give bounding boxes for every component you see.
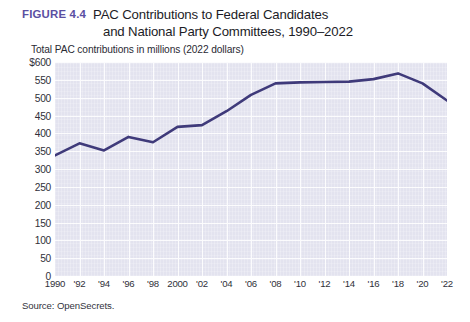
x-axis-tick-2018: '18	[392, 278, 404, 289]
x-axis-tick-2000: 2000	[167, 278, 187, 289]
x-axis-tick-1996: '96	[123, 278, 135, 289]
y-axis-tick-0: 0	[0, 271, 51, 282]
x-axis-tick-2016: '16	[368, 278, 380, 289]
x-axis-tick-2004: '04	[221, 278, 233, 289]
y-axis-tick-150: 150	[0, 217, 51, 228]
data-series-line	[55, 62, 447, 276]
x-axis-tick-2002: '02	[196, 278, 208, 289]
y-axis-tick-300: 300	[0, 164, 51, 175]
y-axis-tick-350: 350	[0, 146, 51, 157]
x-axis-tick-1994: '94	[98, 278, 110, 289]
x-axis-tick-2014: '14	[343, 278, 355, 289]
x-axis-tick-2020: '20	[417, 278, 429, 289]
x-axis-tick-2008: '08	[270, 278, 282, 289]
y-axis-tick-100: 100	[0, 235, 51, 246]
x-axis-tick-labels: 1990'92'94'96'982000'02'04'06'08'10'12'1…	[55, 278, 447, 294]
y-axis-tick-600: $600	[0, 57, 51, 68]
x-axis-tick-2006: '06	[245, 278, 257, 289]
chart-container: 050100150200250300350400450500550$600 19…	[0, 0, 470, 322]
x-axis-tick-2022: '22	[441, 278, 453, 289]
y-axis-tick-200: 200	[0, 199, 51, 210]
x-axis-tick-2012: '12	[319, 278, 331, 289]
y-axis-tick-550: 550	[0, 74, 51, 85]
x-axis-tick-1992: '92	[74, 278, 86, 289]
x-axis-tick-1990: 1990	[45, 278, 65, 289]
y-axis-tick-450: 450	[0, 110, 51, 121]
source-note: Source: OpenSecrets.	[22, 300, 114, 311]
y-axis-tick-250: 250	[0, 181, 51, 192]
x-axis-tick-2010: '10	[294, 278, 306, 289]
y-axis-tick-50: 50	[0, 253, 51, 264]
y-axis-tick-400: 400	[0, 128, 51, 139]
series-line-0	[55, 73, 447, 155]
y-axis-tick-500: 500	[0, 92, 51, 103]
x-axis-tick-1998: '98	[147, 278, 159, 289]
plot-area	[55, 62, 447, 276]
